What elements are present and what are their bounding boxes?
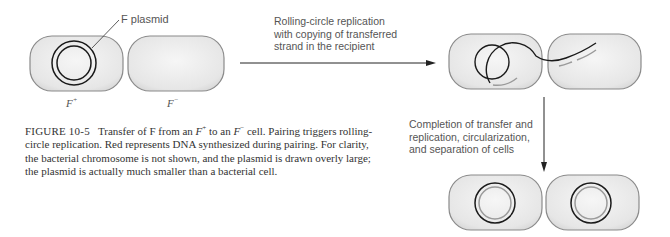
donor-cell	[30, 36, 123, 91]
step1-line: Rolling-circle replication	[274, 15, 397, 28]
step2-line: Completion of transfer and	[409, 118, 533, 131]
donor-label-sup: +	[73, 96, 78, 104]
plasmid-label: F plasmid	[121, 13, 169, 26]
donor-label-text: F	[66, 97, 73, 109]
donor-label: F+	[66, 96, 77, 109]
step1-line: with copying of transferred	[274, 28, 397, 41]
step2-line: and separation of cells	[409, 143, 533, 156]
arrow-step1	[240, 60, 436, 66]
figure-number: FIGURE 10-5	[25, 125, 90, 137]
donor-cell-2	[449, 34, 542, 89]
recipient-label: F−	[167, 96, 178, 109]
arrow-step2	[541, 97, 547, 172]
recipient-cell-2	[548, 34, 641, 89]
step2-line: replication, circularization,	[409, 131, 533, 144]
recipient-label-text: F	[167, 97, 174, 109]
step2-text: Completion of transfer and replication, …	[409, 118, 533, 156]
stage3-cells	[449, 175, 639, 230]
step1-line: strand in the recipient	[274, 40, 397, 53]
recipient-label-sup: −	[174, 96, 179, 104]
recipient-cell	[128, 36, 224, 91]
caption-text: to an	[206, 125, 233, 137]
figure-caption: FIGURE 10-5 Transfer of F from an F+ to …	[25, 122, 385, 179]
stage2-cells	[449, 34, 641, 89]
stage1-cells	[30, 20, 224, 91]
figure-stage: F plasmid F+ F− Rolling-circle replicati…	[0, 0, 670, 237]
step1-text: Rolling-circle replication with copying …	[274, 15, 397, 53]
caption-text: Transfer of F from an	[98, 125, 196, 137]
